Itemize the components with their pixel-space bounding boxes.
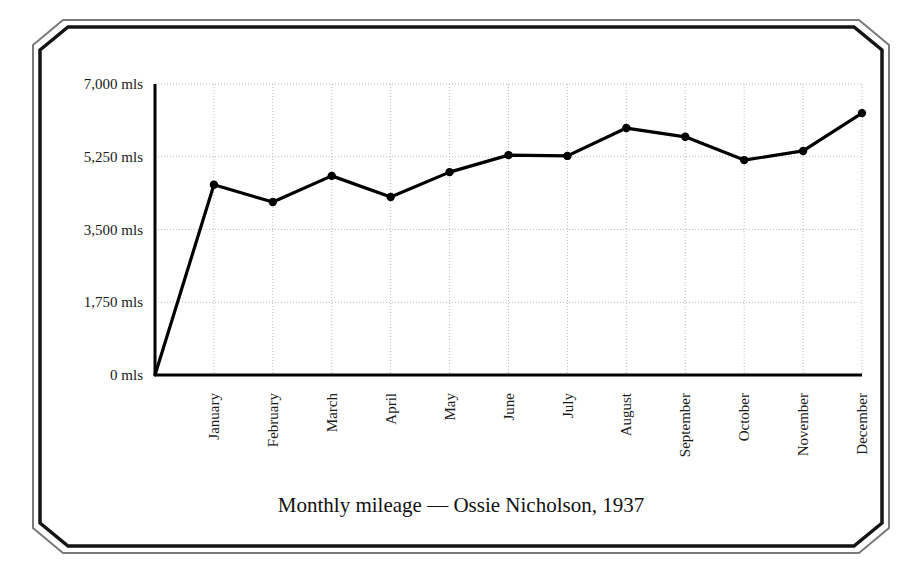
x-axis-tick-label: December <box>854 393 870 455</box>
data-point-marker <box>681 133 689 141</box>
x-axis-tick-labels: JanuaryFebruaryMarchAprilMayJuneJulyAugu… <box>206 392 870 457</box>
data-point-marker <box>799 147 807 155</box>
x-axis-tick-label: June <box>501 393 517 421</box>
x-axis-tick-label: February <box>265 393 281 448</box>
y-axis-tick-label: 1,750 mls <box>84 294 143 310</box>
x-axis-tick-label: July <box>560 393 576 419</box>
y-axis-tick-label: 0 mls <box>110 367 143 383</box>
data-point-marker <box>622 124 630 132</box>
data-point-marker <box>210 181 218 189</box>
data-point-marker <box>328 172 336 180</box>
y-axis-tick-label: 7,000 mls <box>84 76 143 92</box>
data-point-marker <box>504 151 512 159</box>
x-axis-tick-label: May <box>442 393 458 421</box>
y-axis-tick-label: 5,250 mls <box>84 149 143 165</box>
data-point-marker <box>858 109 866 117</box>
x-axis-tick-label: October <box>736 393 752 441</box>
x-axis-tick-label: March <box>324 393 340 433</box>
x-axis-tick-label: November <box>795 393 811 456</box>
chart-title: Monthly mileage — Ossie Nicholson, 1937 <box>278 493 644 517</box>
data-point-marker <box>563 152 571 160</box>
y-axis-tick-label: 3,500 mls <box>84 222 143 238</box>
x-axis-tick-label: August <box>618 392 634 436</box>
data-point-marker <box>386 193 394 201</box>
data-point-marker <box>445 168 453 176</box>
x-axis-tick-label: January <box>206 393 222 440</box>
data-point-marker <box>269 198 277 206</box>
x-axis-tick-label: April <box>383 393 399 425</box>
data-point-marker <box>740 156 748 164</box>
x-axis-tick-label: September <box>677 393 693 457</box>
chart-container: 0 mls1,750 mls3,500 mls5,250 mls7,000 ml… <box>0 0 922 573</box>
gridlines <box>155 84 862 375</box>
y-axis-tick-labels: 0 mls1,750 mls3,500 mls5,250 mls7,000 ml… <box>84 76 143 383</box>
